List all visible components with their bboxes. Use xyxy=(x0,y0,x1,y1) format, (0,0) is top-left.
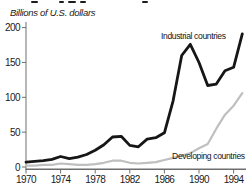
x-tick-label: 1978 xyxy=(85,174,106,185)
y-tick-label: 0 xyxy=(15,162,21,173)
x-tick-label: 1986 xyxy=(154,174,175,185)
x-tick-label: 1982 xyxy=(120,174,141,185)
x-tick-label: 1990 xyxy=(189,174,210,185)
series-label-developing: Developing countries xyxy=(172,150,245,161)
series-line-industrial xyxy=(26,34,242,162)
capital-flows-line-chart: Billions of U.S. dollars 050100150200197… xyxy=(0,0,246,188)
y-tick-label: 150 xyxy=(5,57,21,68)
series-label-industrial: Industrial countries xyxy=(161,30,226,41)
x-tick-label: 1970 xyxy=(16,174,37,185)
x-tick-label: 1994 xyxy=(224,174,245,185)
y-tick-label: 100 xyxy=(5,92,21,103)
x-tick-label: 1974 xyxy=(51,174,72,185)
y-tick-label: 200 xyxy=(5,22,21,33)
y-tick-label: 50 xyxy=(10,127,21,138)
